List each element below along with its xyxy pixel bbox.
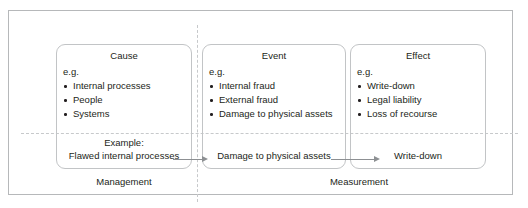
list-item: People [63, 93, 187, 107]
arrow-head [202, 156, 208, 162]
list-item: Loss of recourse [357, 107, 481, 121]
list-item: Legal liability [357, 93, 481, 107]
node-event-list: Internal fraud External fraud Damage to … [209, 79, 341, 122]
section-label-management: Management [56, 176, 192, 188]
diagram-canvas: Cause e.g. Internal processes People Sys… [0, 0, 528, 208]
list-item: Write-down [357, 79, 481, 93]
list-item: Internal processes [63, 79, 187, 93]
arrow-right-icon-cause-to-event [173, 156, 209, 163]
node-effect-eg-label: e.g. [357, 66, 373, 78]
list-item: Internal fraud [209, 79, 341, 93]
example-event-text: Damage to physical assets [202, 150, 346, 162]
example-caption: Example: [56, 137, 192, 149]
arrow-head [374, 156, 380, 162]
list-item: Systems [63, 107, 187, 121]
diagram-frame: Cause e.g. Internal processes People Sys… [8, 10, 513, 195]
node-event-title: Event [203, 50, 345, 62]
list-item: Damage to physical assets [209, 107, 341, 121]
node-event-eg-label: e.g. [209, 66, 225, 78]
example-cause-text: Flawed internal processes [56, 150, 192, 162]
node-cause-list: Internal processes People Systems [63, 79, 187, 122]
vertical-dashed-divider [197, 25, 198, 202]
node-effect-list: Write-down Legal liability Loss of recou… [357, 79, 481, 122]
arrow-shaft [331, 159, 375, 160]
node-effect-title: Effect [351, 50, 485, 62]
node-cause-title: Cause [57, 50, 191, 62]
arrow-shaft [173, 159, 203, 160]
section-label-measurement: Measurement [279, 176, 439, 188]
arrow-right-icon-event-to-effect [331, 156, 381, 163]
list-item: External fraud [209, 93, 341, 107]
node-cause-eg-label: e.g. [63, 66, 79, 78]
